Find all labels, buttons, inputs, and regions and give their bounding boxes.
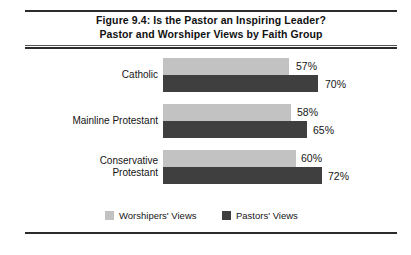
- bar-worshipers-catholic: [163, 58, 289, 75]
- title-rule-top: [25, 10, 397, 12]
- plot-area: Catholic 57% 70% Mainline Protestant 58%…: [0, 56, 411, 202]
- category-label-line-1: Conservative: [8, 155, 158, 167]
- figure-9-4-container: Figure 9.4: Is the Pastor an Inspiring L…: [0, 0, 411, 255]
- figure-title: Figure 9.4: Is the Pastor an Inspiring L…: [25, 13, 397, 41]
- legend-label-pastors-views: Pastors' Views: [236, 210, 298, 222]
- figure-rule-bottom: [25, 232, 397, 234]
- legend-item-worshipers-views: Worshipers' Views: [105, 210, 197, 222]
- title-rule-bottom-hairline: [25, 45, 397, 46]
- category-label-mainline-protestant: Mainline Protestant: [8, 115, 158, 127]
- legend-swatch-dark-gray-icon: [222, 211, 231, 220]
- category-label-conservative-protestant: Conservative Protestant: [8, 155, 158, 179]
- bar-worshipers-mainline-protestant: [163, 104, 291, 121]
- title-rule-bottom: [25, 47, 397, 49]
- bar-worshipers-conservative-protestant: [163, 150, 296, 167]
- bar-value-worshipers-conservative-protestant: 60%: [301, 152, 322, 164]
- chart-legend: Worshipers' Views Pastors' Views: [0, 210, 411, 224]
- legend-item-pastors-views: Pastors' Views: [222, 210, 298, 222]
- category-label-line-1: Catholic: [8, 69, 158, 81]
- category-label-line-1: Mainline Protestant: [8, 115, 158, 127]
- bar-group-mainline-protestant: Mainline Protestant 58% 65%: [0, 102, 411, 146]
- category-label-catholic: Catholic: [8, 69, 158, 81]
- bar-pastors-catholic: [163, 75, 318, 92]
- bar-pastors-mainline-protestant: [163, 121, 307, 138]
- category-label-line-2: Protestant: [8, 167, 158, 179]
- legend-swatch-light-gray-icon: [105, 211, 114, 220]
- bar-group-conservative-protestant: Conservative Protestant 60% 72%: [0, 148, 411, 194]
- bar-pastors-conservative-protestant: [163, 167, 322, 184]
- bar-group-catholic: Catholic 57% 70%: [0, 56, 411, 100]
- bar-value-pastors-conservative-protestant: 72%: [328, 170, 349, 182]
- bar-value-pastors-catholic: 70%: [325, 78, 346, 90]
- legend-label-worshipers-views: Worshipers' Views: [119, 210, 197, 222]
- figure-title-line-2: Pastor and Worshiper Views by Faith Grou…: [25, 27, 397, 41]
- bar-value-pastors-mainline-protestant: 65%: [313, 124, 334, 136]
- bar-value-worshipers-catholic: 57%: [296, 60, 317, 72]
- bar-value-worshipers-mainline-protestant: 58%: [297, 106, 318, 118]
- figure-title-line-1: Figure 9.4: Is the Pastor an Inspiring L…: [25, 13, 397, 27]
